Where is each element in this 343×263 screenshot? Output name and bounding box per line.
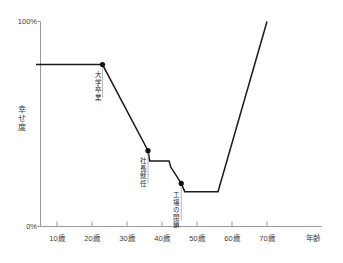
y-axis-tick-label-min: 0%	[5, 222, 37, 231]
chart-annotation-leaders	[103, 68, 182, 221]
y-axis-tick-label-max: 100%	[5, 17, 37, 26]
x-axis-title: 年齢	[306, 232, 320, 243]
chart-annotation-label: 社長就任	[139, 157, 146, 187]
happiness-vs-age-chart: 100% 0% 幸せ度 年齢 10歳20歳30歳40歳50歳60歳70歳 大学卒…	[0, 0, 343, 263]
x-axis-tick-label: 20歳	[82, 232, 102, 243]
x-axis-tick-label: 10歳	[47, 232, 67, 243]
chart-axis-ticks	[38, 22, 268, 228]
x-axis-tick-label: 40歳	[152, 232, 172, 243]
y-axis-title: 幸せ度	[16, 105, 24, 132]
x-axis-tick-label: 70歳	[257, 232, 277, 243]
chart-annotation-label: 大学卒業	[94, 71, 101, 101]
chart-annotation-label: 工場の閉鎖	[172, 191, 179, 229]
chart-data-line	[36, 22, 267, 192]
x-axis-tick-label: 30歳	[117, 232, 137, 243]
x-axis-tick-label: 50歳	[187, 232, 207, 243]
x-axis-tick-label: 60歳	[222, 232, 242, 243]
